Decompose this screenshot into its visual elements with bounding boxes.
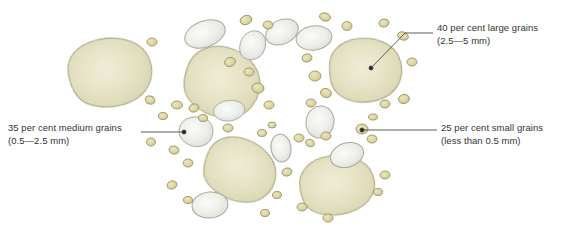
small-grain — [369, 114, 378, 120]
medium-grain — [240, 31, 266, 60]
small-grain — [319, 87, 332, 99]
small-grain — [168, 145, 180, 155]
small-grain — [184, 197, 193, 204]
callout-small-line2: (less than 0.5 mm) — [441, 135, 543, 148]
callout-small-grains: 25 per cent small grains (less than 0.5 … — [441, 122, 543, 147]
small-grain — [281, 167, 293, 177]
small-grain — [374, 189, 383, 196]
small-grain — [144, 94, 156, 105]
small-grain — [319, 12, 332, 23]
leader-line-small — [360, 128, 437, 132]
small-grain — [166, 180, 178, 191]
small-grain — [367, 135, 377, 143]
medium-grain — [295, 24, 334, 53]
small-grain — [321, 132, 331, 140]
small-grain — [304, 138, 315, 148]
medium-grain — [262, 14, 303, 50]
small-grain — [380, 171, 390, 179]
small-grain — [297, 203, 307, 211]
small-grain — [147, 38, 157, 46]
small-grain — [323, 214, 333, 222]
small-grain — [268, 122, 276, 128]
small-grain — [239, 14, 253, 27]
small-grain — [342, 22, 352, 31]
medium-grain — [214, 100, 245, 121]
callout-medium-line2: (0.5—2.5 mm) — [8, 135, 122, 148]
small-grain — [294, 134, 304, 142]
medium-grain — [269, 133, 293, 164]
large-grain — [63, 30, 158, 115]
small-grain — [159, 113, 168, 120]
sand-grain-diagram: 40 per cent large grains (2.5—5 mm) 35 p… — [0, 0, 574, 226]
small-grain — [309, 71, 321, 81]
small-grain — [147, 138, 156, 146]
small-grain — [258, 130, 267, 137]
callout-large-line2: (2.5—5 mm) — [437, 35, 538, 48]
small-grain — [172, 101, 183, 109]
small-grain — [244, 68, 254, 76]
small-grain — [261, 210, 270, 217]
small-grain — [407, 58, 417, 66]
small-grain — [263, 21, 273, 29]
medium-grain — [303, 103, 337, 140]
small-grain — [301, 53, 312, 63]
small-grain — [183, 159, 193, 167]
small-grain — [380, 100, 390, 108]
small-grain — [273, 192, 282, 199]
small-grain — [378, 18, 389, 28]
callout-small-line1: 25 per cent small grains — [441, 122, 543, 135]
callout-large-line1: 40 per cent large grains — [437, 22, 538, 35]
small-grain — [398, 93, 411, 104]
callout-medium-grains: 35 per cent medium grains (0.5—2.5 mm) — [8, 122, 122, 147]
callout-large-grains: 40 per cent large grains (2.5—5 mm) — [437, 22, 538, 47]
small-grain — [264, 101, 274, 109]
small-grain — [306, 99, 316, 107]
small-grain — [223, 124, 233, 132]
small-grain — [199, 115, 208, 122]
callout-medium-line1: 35 per cent medium grains — [8, 122, 122, 135]
